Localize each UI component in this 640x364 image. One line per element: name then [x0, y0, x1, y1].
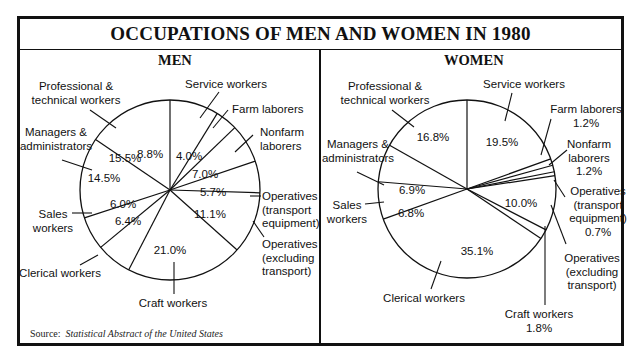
label-text: (excluding — [566, 266, 618, 278]
label-text: transport) — [262, 265, 311, 277]
label-text: laborers — [568, 152, 610, 164]
leader-line — [80, 255, 98, 265]
leader-line — [357, 172, 384, 185]
label-text: 1.2% — [576, 165, 602, 177]
slice-label-nonfarm-laborers: Nonfarmlaborers — [235, 126, 304, 152]
slice-value-clerical-workers: 35.1% — [461, 245, 494, 257]
label-text: technical workers — [32, 94, 121, 106]
slice-value-operatives-excluding-transport: 11.1% — [194, 208, 226, 220]
women-pie-chart: 19.5%10.0%35.1%6.8%6.9%16.8%Service work… — [322, 78, 627, 334]
leader-line — [549, 150, 567, 165]
slice-value-managers-administrators: 14.5% — [88, 172, 121, 184]
slice-value-sales-workers: 6.8% — [398, 207, 424, 219]
label-text: Operatives — [262, 238, 318, 250]
slice-value-professional-technical-workers: 15.5% — [109, 152, 142, 164]
slice-boundary-nonfarm-laborers — [467, 165, 553, 189]
leader-line — [431, 261, 441, 289]
label-text: workers — [32, 222, 74, 234]
leader-line — [551, 205, 566, 244]
slice-boundary-craft-workers — [467, 189, 546, 230]
slice-label-sales-workers: Salesworkers — [326, 199, 384, 225]
slice-value-professional-technical-workers: 16.8% — [417, 131, 450, 143]
slice-label-operatives-transport-equipment: Operatives(transportequipment) — [250, 190, 320, 229]
slice-boundary-farm-laborers — [467, 159, 551, 189]
label-text: equipment) — [262, 217, 320, 229]
slice-label-operatives-excluding-transport: Operatives(excludingtransport) — [253, 221, 318, 277]
label-text: (transport — [573, 199, 623, 211]
slice-label-professional-technical-workers: Professional &technical workers — [32, 80, 121, 128]
label-text: Clerical workers — [19, 267, 101, 279]
label-text: Clerical workers — [383, 292, 465, 304]
label-text: Nonfarm — [567, 138, 611, 150]
leader-line — [505, 93, 512, 121]
slice-label-nonfarm-laborers: Nonfarmlaborers1.2% — [549, 138, 611, 177]
label-text: 0.7% — [585, 226, 611, 238]
slice-label-clerical-workers: Clerical workers — [19, 255, 101, 279]
slice-boundary-professional-technical-workers — [390, 145, 467, 189]
label-text: Managers & — [327, 138, 389, 150]
men-pie-chart: 8.8%4.0%7.0%5.7%11.1%21.0%6.4%6.0%14.5%1… — [19, 78, 320, 309]
leader-line — [90, 110, 116, 128]
label-text: workers — [326, 213, 368, 225]
leader-line — [541, 119, 551, 155]
label-text: administrators — [322, 152, 394, 164]
slice-label-operatives-transport-equipment: Operatives(transportequipment)0.7% — [554, 180, 627, 238]
leader-line — [365, 202, 384, 204]
label-text: Operatives — [564, 252, 620, 264]
label-text: transport) — [567, 279, 616, 291]
pie-charts-canvas: 8.8%4.0%7.0%5.7%11.1%21.0%6.4%6.0%14.5%1… — [0, 0, 640, 364]
label-text: 1.8% — [526, 322, 552, 334]
label-text: Service workers — [483, 78, 565, 90]
slice-boundary-craft-workers — [170, 190, 237, 250]
label-text: Sales — [39, 208, 68, 220]
label-text: Professional & — [39, 80, 113, 92]
label-text: Service workers — [185, 78, 267, 90]
label-text: Craft workers — [139, 297, 208, 309]
leader-line — [392, 110, 414, 127]
slice-boundary-operatives-excluding-transport — [467, 176, 555, 189]
label-text: Sales — [333, 199, 362, 211]
slice-label-managers-administrators: Managers &administrators — [322, 138, 394, 185]
label-text: Professional & — [348, 80, 422, 92]
slice-value-managers-administrators: 6.9% — [399, 184, 425, 196]
slice-value-farm-laborers: 4.0% — [176, 150, 202, 162]
slice-label-craft-workers: Craft workers — [139, 262, 208, 309]
label-text: Craft workers — [505, 308, 574, 320]
label-text: Farm laborers — [232, 103, 304, 115]
slice-label-farm-laborers: Farm laborers — [213, 103, 304, 128]
label-text: (excluding — [262, 252, 314, 264]
slice-boundary-sales-workers — [383, 189, 467, 219]
slice-label-managers-administrators: Managers &administrators — [20, 126, 92, 170]
leader-line — [62, 160, 92, 170]
label-text: Managers & — [25, 126, 87, 138]
slice-value-craft-workers: 21.0% — [154, 244, 187, 256]
label-text: equipment) — [569, 212, 627, 224]
label-text: Farm laborers — [550, 103, 622, 115]
slice-value-service-workers: 19.5% — [486, 136, 519, 148]
label-text: administrators — [20, 140, 92, 152]
label-text: laborers — [260, 140, 302, 152]
label-text: Operatives — [570, 185, 626, 197]
label-text: 1.2% — [573, 117, 599, 129]
label-text: Nonfarm — [260, 126, 304, 138]
label-text: (transport — [262, 204, 312, 216]
slice-value-operatives-excluding-transport: 10.0% — [505, 197, 538, 209]
label-text: technical workers — [341, 94, 430, 106]
label-text: Operatives — [262, 190, 318, 202]
slice-label-professional-technical-workers: Professional &technical workers — [341, 80, 430, 127]
